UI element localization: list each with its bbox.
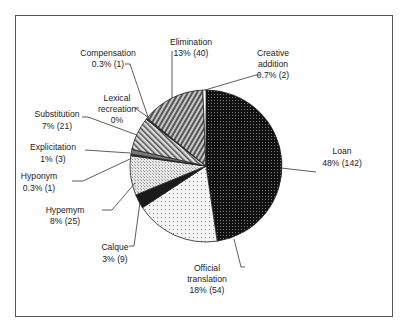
label-creative-value: 0.7% (2) [257, 70, 290, 80]
label-hyponym: Hyponym 0.3% (1) [21, 171, 57, 193]
label-official-translation: Official translation 18% (54) [187, 263, 227, 295]
label-compensation-name: Compensation [80, 48, 136, 58]
label-lexical-line2: recreation [98, 104, 136, 114]
label-creative-addition: Creative addition 0.7% (2) [257, 48, 290, 80]
label-hypernym: Hypemym 8% (25) [46, 205, 85, 226]
label-elimination-name: Elimination [170, 37, 212, 47]
label-substitution-value: 7% (21) [42, 121, 72, 131]
label-loan-name: Loan [332, 146, 351, 156]
label-calque-value: 3% (9) [102, 254, 127, 264]
label-elimination-value: 13% (40) [174, 48, 209, 58]
label-creative-line2: addition [258, 59, 288, 69]
label-substitution: Substitution 7% (21) [35, 109, 80, 131]
label-calque-name: Calque [101, 242, 128, 252]
label-explicitation: Explicitation 1% (3) [30, 142, 76, 164]
pie-chart: Loan 48% (142) Official translation 18% … [0, 0, 405, 333]
label-explicitation-value: 1% (3) [40, 154, 65, 164]
label-lexical-value: 0% [111, 115, 124, 125]
label-hypernym-name: Hypemym [46, 205, 85, 215]
label-lexical-line1: Lexical [104, 93, 131, 103]
label-compensation-value: 0.3% (1) [92, 59, 125, 69]
label-loan-value: 48% (142) [322, 158, 362, 168]
label-loan: Loan 48% (142) [322, 146, 362, 168]
label-official-value: 18% (54) [190, 285, 225, 295]
label-official-line2: translation [187, 274, 227, 284]
label-hyponym-name: Hyponym [21, 171, 57, 181]
label-calque: Calque 3% (9) [101, 242, 128, 264]
label-elimination: Elimination 13% (40) [170, 37, 212, 58]
label-hyponym-value: 0.3% (1) [23, 183, 56, 193]
label-substitution-name: Substitution [35, 109, 80, 119]
label-official-line1: Official [194, 263, 220, 273]
label-hypernym-value: 8% (25) [50, 216, 80, 226]
label-compensation: Compensation 0.3% (1) [80, 48, 136, 69]
label-explicitation-name: Explicitation [30, 142, 76, 152]
label-lexical-recreation: Lexical recreation 0% [98, 93, 136, 125]
label-creative-line1: Creative [257, 48, 289, 58]
pie-slice-loan [206, 90, 282, 241]
